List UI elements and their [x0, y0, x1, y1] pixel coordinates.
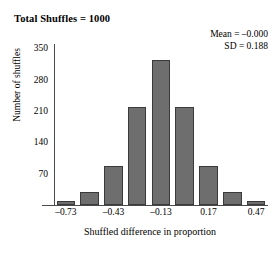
histogram-bar — [104, 166, 123, 205]
histogram-bar — [175, 107, 194, 205]
histogram-bar — [223, 192, 242, 205]
x-tick-label: –0.43 — [91, 206, 135, 218]
x-axis-tick-labels: –0.73–0.43–0.130.170.47 — [0, 206, 278, 220]
histogram-bar — [80, 192, 99, 205]
histogram-bar — [57, 201, 76, 205]
histogram-bar — [128, 107, 147, 205]
x-axis-title: Shuffled difference in proportion — [0, 226, 278, 237]
histogram-bar — [152, 60, 171, 205]
mean-annotation: Mean = –0.000 — [210, 28, 268, 40]
x-tick-label: –0.73 — [44, 206, 88, 218]
histogram-bar — [247, 201, 266, 205]
y-tick-label: 140 — [18, 137, 48, 147]
y-tick-label: 70 — [18, 169, 48, 179]
histogram-bar — [199, 166, 218, 205]
histogram-bars — [54, 44, 268, 205]
histogram-figure: Total Shuffles = 1000 Mean = –0.000 SD =… — [0, 0, 278, 254]
x-tick-label: –0.13 — [139, 206, 183, 218]
x-tick-label: 0.47 — [234, 206, 278, 218]
y-tick-label: 350 — [18, 43, 48, 53]
y-tick-label: 280 — [18, 75, 48, 85]
x-tick-label: 0.17 — [187, 206, 231, 218]
y-tick-label: 210 — [18, 106, 48, 116]
